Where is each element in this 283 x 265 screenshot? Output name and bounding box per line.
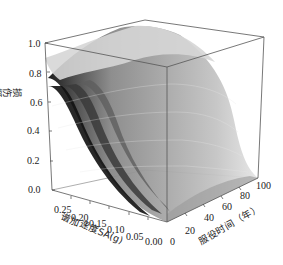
x-tick-4: 0.05 — [126, 231, 144, 242]
y-tick-4: 80 — [240, 190, 250, 201]
fragility-surface-chart: 0.0 0.2 0.4 0.6 0.8 1.0 损伤概率 0.25 0.20 0… — [0, 0, 283, 265]
z-tick-3: 0.6 — [30, 97, 43, 108]
z-axis-label: 损伤概率 — [0, 87, 23, 98]
y-tick-1: 20 — [185, 225, 195, 236]
z-tick-4: 0.8 — [29, 68, 42, 79]
y-tick-2: 40 — [204, 212, 214, 223]
z-tick-1: 0.2 — [27, 155, 40, 166]
y-tick-0: 0 — [170, 236, 175, 247]
y-tick-3: 60 — [222, 201, 232, 212]
x-tick-5: 0.00 — [145, 236, 163, 247]
z-tick-5: 1.0 — [28, 38, 41, 49]
z-tick-2: 0.4 — [27, 125, 40, 136]
fragility-surface — [45, 26, 258, 222]
y-tick-5: 100 — [256, 180, 271, 191]
z-tick-0: 0.0 — [28, 184, 41, 195]
